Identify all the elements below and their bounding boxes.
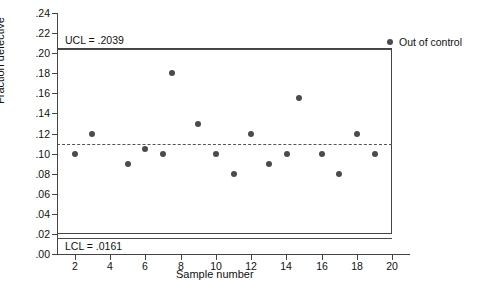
legend: Out of control [387,36,462,48]
y-axis-tick-label: .06 [23,189,50,199]
y-axis-tick [52,194,57,195]
x-axis-title: Sample number [176,268,254,280]
legend-label: Out of control [399,36,462,48]
data-point [354,131,360,137]
data-point [142,146,148,152]
x-axis-tick-label: 18 [345,261,369,272]
x-axis-tick-label: 16 [310,261,334,272]
y-axis-tick [52,93,57,94]
y-axis-tick [52,214,57,215]
x-axis-tick-label: 14 [274,261,298,272]
x-axis-tick-label: 20 [380,261,404,272]
data-point [160,151,166,157]
y-axis-tick-label: .18 [23,68,50,78]
data-point [266,161,272,167]
data-point [89,131,95,137]
data-point [248,131,254,137]
y-axis-tick [52,73,57,74]
y-axis-tick-label: .02 [23,229,50,239]
lcl-label: LCL = .0161 [65,241,122,252]
y-axis-tick-label: .04 [23,209,50,219]
y-axis-tick-label: .14 [23,108,50,118]
y-axis-tick [52,13,57,14]
data-point [169,70,175,76]
y-axis-title: Fraction defective [0,17,6,104]
ucl-label: UCL = .2039 [65,35,124,46]
y-axis-tick [52,53,57,54]
y-axis-tick-label: .12 [23,129,50,139]
y-axis-tick [52,174,57,175]
y-axis-tick [52,113,57,114]
data-point [195,121,201,127]
ucl-line [57,49,392,50]
data-point [372,151,378,157]
lcl-line [57,238,392,239]
x-axis-tick-label: 4 [98,261,122,272]
y-axis-tick [52,33,57,34]
data-point [213,151,219,157]
y-axis-tick [52,234,57,235]
data-point [125,161,131,167]
x-axis-tick-label: 2 [63,261,87,272]
y-axis-tick-label: .24 [23,8,50,18]
y-axis-tick-label: .08 [23,169,50,179]
y-axis-tick-label: .10 [23,149,50,159]
y-axis-tick-label: .22 [23,28,50,38]
data-point [72,151,78,157]
y-axis-tick-label: .20 [23,48,50,58]
data-point [231,171,237,177]
y-axis-tick-label: .16 [23,88,50,98]
plot-frame [57,48,392,234]
control-chart-figure: .00.02.04.06.08.10.12.14.16.18.20.22.24 … [0,0,488,291]
y-axis-tick-label: .00 [23,249,50,259]
out-of-control-marker-icon [387,39,393,45]
x-axis-tick-label: 6 [133,261,157,272]
data-point [284,151,290,157]
y-axis-tick [52,254,57,255]
y-axis-tick [52,154,57,155]
center-line [57,144,392,145]
data-point [319,151,325,157]
y-axis-tick [52,134,57,135]
